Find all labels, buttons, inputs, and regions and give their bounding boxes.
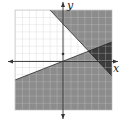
y-axis-down-arrow-icon [61,114,65,119]
inequality-graph: y x [0,0,125,124]
y-axis-label: y [66,0,74,12]
y-axis-up-arrow-icon [61,2,65,7]
x-axis-label: x [113,62,120,75]
test-point-marker [62,53,65,56]
x-axis-left-arrow-icon [8,60,13,64]
